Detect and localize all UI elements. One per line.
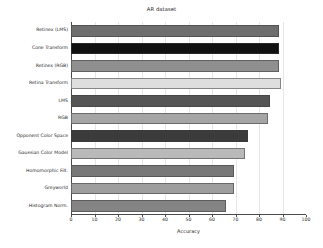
x-axis-tick-label: 0	[70, 218, 73, 223]
x-axis-tick-label: 10	[92, 218, 98, 223]
x-axis-tick-label: 100	[302, 218, 311, 223]
x-axis-tick-label: 90	[280, 218, 286, 223]
y-axis-tick-label: Homomorphic Filt.	[26, 169, 68, 174]
bar-row: Cone Transform	[71, 43, 306, 55]
y-axis-tick-label: RGB	[58, 116, 68, 121]
bar-row: Homomorphic Filt.	[71, 165, 306, 177]
bar	[71, 148, 245, 160]
bar	[71, 78, 281, 90]
x-axis-tick-label: 50	[186, 218, 192, 223]
y-axis-tick-label: Cone Transform	[32, 46, 68, 51]
y-axis-tick-label: Opponent Color Space	[16, 134, 68, 139]
y-axis-tick-label: Retinex (LMS)	[36, 28, 68, 33]
x-axis-tick-label: 20	[115, 218, 121, 223]
bar	[71, 25, 279, 37]
bar	[71, 183, 234, 195]
y-axis-tick-label: Greyworld	[44, 186, 68, 191]
y-axis-tick-label: Retina Transform	[29, 81, 68, 86]
y-axis-tick-label: Gaussian Color Model	[18, 151, 68, 156]
bar-row: Histogram Norm.	[71, 200, 306, 212]
y-axis-tick-label: Retinex (RGB)	[36, 64, 68, 69]
x-axis-tick-label: 80	[256, 218, 262, 223]
bar-row: Retinex (LMS)	[71, 25, 306, 37]
chart-figure: AR dataset Retinex (LMS)Cone TransformRe…	[0, 0, 323, 248]
bar	[71, 113, 268, 125]
bar-row: Retina Transform	[71, 78, 306, 90]
bar-row: RGB	[71, 113, 306, 125]
x-axis-tick-label: 30	[139, 218, 145, 223]
x-axis-ticks: 0102030405060708090100	[71, 215, 306, 229]
bar-row: LMS	[71, 95, 306, 107]
x-axis-label: Accuracy	[71, 228, 306, 234]
x-axis-tick-label: 40	[162, 218, 168, 223]
bar	[71, 165, 234, 177]
bar	[71, 43, 279, 55]
chart-title: AR dataset	[0, 6, 323, 12]
bar	[71, 60, 279, 72]
bar	[71, 200, 226, 212]
bar-row: Retinex (RGB)	[71, 60, 306, 72]
bars-container: Retinex (LMS)Cone TransformRetinex (RGB)…	[71, 22, 306, 215]
y-axis-tick-label: LMS	[59, 99, 68, 104]
bar-row: Greyworld	[71, 183, 306, 195]
y-axis-tick-label: Histogram Norm.	[29, 204, 68, 209]
bar	[71, 95, 270, 107]
bar-row: Opponent Color Space	[71, 130, 306, 142]
bar-row: Gaussian Color Model	[71, 148, 306, 160]
x-axis-tick-label: 60	[209, 218, 215, 223]
x-axis-tick-label: 70	[233, 218, 239, 223]
plot-area: Retinex (LMS)Cone TransformRetinex (RGB)…	[71, 22, 306, 215]
bar	[71, 130, 248, 142]
